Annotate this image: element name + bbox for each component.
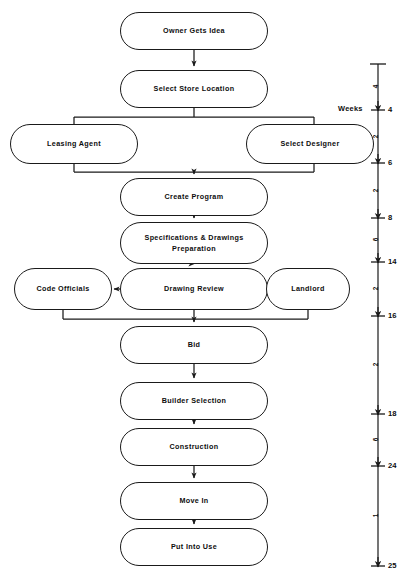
timeline-interval-value: 2 (372, 363, 379, 367)
node-leasing-agent[interactable]: Leasing Agent (10, 124, 138, 164)
timeline-tick-value: 18 (388, 409, 396, 418)
node-landlord[interactable]: Landlord (266, 268, 350, 310)
node-label: Owner Gets Idea (159, 25, 229, 36)
timeline-tick-value: 4 (388, 105, 392, 114)
timeline-tick-value: 8 (388, 213, 392, 222)
node-move-in[interactable]: Move In (120, 482, 268, 520)
node-label: Bid (184, 339, 205, 350)
node-builder-selection[interactable]: Builder Selection (120, 382, 268, 420)
node-select-designer[interactable]: Select Designer (246, 124, 374, 164)
weeks-axis-label: Weeks (338, 104, 363, 113)
node-label: Move In (175, 495, 212, 506)
timeline-interval-value: 6 (372, 438, 379, 442)
node-label: Put Into Use (167, 541, 221, 552)
timeline-tick-value: 6 (388, 158, 392, 167)
node-owner-gets-idea[interactable]: Owner Gets Idea (120, 12, 268, 50)
node-label: Specifications & DrawingsPreparation (140, 232, 247, 254)
node-select-store[interactable]: Select Store Location (120, 70, 268, 108)
node-put-into-use[interactable]: Put Into Use (120, 528, 268, 566)
node-label: Leasing Agent (43, 138, 105, 149)
node-label: Construction (166, 441, 223, 452)
timeline-tick-value: 14 (388, 257, 396, 266)
timeline-tick-value: 24 (388, 461, 396, 470)
node-label: Code Officials (32, 283, 93, 294)
timeline-interval-value: 2 (372, 287, 379, 291)
node-label: Drawing Review (160, 283, 228, 294)
node-specs-drawings[interactable]: Specifications & DrawingsPreparation (120, 222, 268, 264)
node-drawing-review[interactable]: Drawing Review (120, 268, 268, 310)
timeline-tick-value: 25 (388, 561, 396, 570)
timeline-interval-value: 6 (372, 238, 379, 242)
node-label: Select Designer (276, 138, 343, 149)
node-label: Landlord (287, 283, 329, 294)
timeline-interval-value: 2 (372, 189, 379, 193)
timeline-tick-value: 16 (388, 311, 396, 320)
node-label: Select Store Location (150, 83, 239, 94)
timeline-interval-value: 4 (372, 85, 379, 89)
node-label: Builder Selection (158, 395, 231, 406)
timeline-interval-value: 2 (372, 135, 379, 139)
timeline-interval-value: 1 (372, 514, 379, 518)
node-bid[interactable]: Bid (120, 326, 268, 364)
node-create-program[interactable]: Create Program (120, 178, 268, 216)
node-label: Create Program (161, 191, 228, 202)
node-code-officials[interactable]: Code Officials (14, 268, 112, 310)
node-construction[interactable]: Construction (120, 428, 268, 466)
